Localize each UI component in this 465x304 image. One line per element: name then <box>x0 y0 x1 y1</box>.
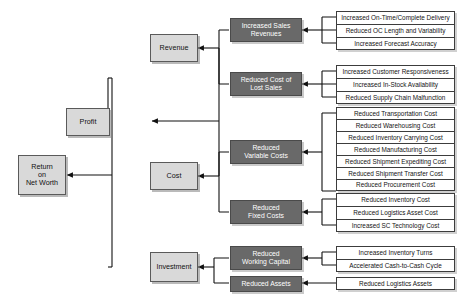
node-label-line1: Reduced <box>252 204 279 212</box>
node-profit[interactable]: Profit <box>66 108 110 136</box>
node-label-line2: Revenues <box>251 30 282 38</box>
leaf-group-reduced-cost-of-lost-sales: Increased Customer Responsiveness Increa… <box>336 65 455 104</box>
leaf-item[interactable]: Reduced OC Length and Variability <box>336 24 455 37</box>
leaf-item[interactable]: Increased Inventory Turns <box>336 246 455 259</box>
node-label-line2: Variable Costs <box>244 152 288 160</box>
leaf-group-increased-sales-revenues: Increased On-Time/Complete Delivery Redu… <box>336 11 455 50</box>
node-label: Reduced Assets <box>241 280 290 288</box>
node-label: Investment <box>156 263 191 271</box>
leaf-item[interactable]: Accelerated Cash-to-Cash Cycle <box>336 259 455 272</box>
leaf-item[interactable]: Reduced Transportation Cost <box>336 107 455 119</box>
leaf-item[interactable]: Reduced Procurement Cost <box>336 179 455 191</box>
node-reduced-working-capital[interactable]: Reduced Working Capital <box>230 246 302 270</box>
leaf-item[interactable]: Reduced Warehousing Cost <box>336 119 455 131</box>
node-reduced-variable-costs[interactable]: Reduced Variable Costs <box>230 140 302 164</box>
leaf-item[interactable]: Reduced Shipment Transfer Cost <box>336 167 455 179</box>
node-investment[interactable]: Investment <box>150 252 198 282</box>
node-label-line2: Lost Sales <box>250 84 282 92</box>
node-label: Cost <box>167 172 182 180</box>
leaf-group-reduced-working-capital: Increased Inventory Turns Accelerated Ca… <box>336 246 455 272</box>
node-return-on-net-worth[interactable]: Return on Net Worth <box>18 155 66 195</box>
node-label-line1: Reduced Cost of <box>241 76 292 84</box>
node-revenue[interactable]: Revenue <box>150 34 198 62</box>
leaf-item[interactable]: Increased In-Stock Availability <box>336 78 455 91</box>
leaf-item[interactable]: Reduced Inventory Carrying Cost <box>336 131 455 143</box>
leaf-item[interactable]: Reduced Logistics Assets <box>336 277 455 290</box>
leaf-item[interactable]: Increased Forecast Accuracy <box>336 37 455 50</box>
node-label-line1: Reduced <box>252 250 279 258</box>
leaf-item[interactable]: Increased On-Time/Complete Delivery <box>336 11 455 24</box>
leaf-group-reduced-variable-costs: Reduced Transportation Cost Reduced Ware… <box>336 107 455 191</box>
leaf-item[interactable]: Reduced Supply Chain Malfunction <box>336 91 455 104</box>
leaf-item[interactable]: Reduced Manufacturing Cost <box>336 143 455 155</box>
node-cost[interactable]: Cost <box>150 162 198 190</box>
node-label-line1: Reduced <box>252 144 279 152</box>
leaf-group-reduced-assets: Reduced Logistics Assets <box>336 277 455 290</box>
leaf-item[interactable]: Reduced Logistics Asset Cost <box>336 206 455 219</box>
leaf-item[interactable]: Reduced Inventory Cost <box>336 193 455 206</box>
leaf-item[interactable]: Increased Customer Responsiveness <box>336 65 455 78</box>
node-label: Profit <box>80 118 97 126</box>
node-label-line2: Working Capital <box>242 258 290 266</box>
node-increased-sales-revenues[interactable]: Increased Sales Revenues <box>230 18 302 42</box>
leaf-item[interactable]: Increased SC Technology Cost <box>336 219 455 232</box>
node-reduced-assets[interactable]: Reduced Assets <box>230 276 302 292</box>
diagram-canvas: Return on Net Worth Profit Investment Re… <box>0 0 465 304</box>
node-label: Revenue <box>160 44 189 52</box>
node-label-line3: Net Worth <box>26 179 58 187</box>
node-label-line1: Increased Sales <box>242 22 291 30</box>
node-reduced-cost-of-lost-sales[interactable]: Reduced Cost of Lost Sales <box>230 72 302 96</box>
leaf-group-reduced-fixed-costs: Reduced Inventory Cost Reduced Logistics… <box>336 193 455 232</box>
node-reduced-fixed-costs[interactable]: Reduced Fixed Costs <box>230 200 302 224</box>
leaf-item[interactable]: Reduced Shipment Expediting Cost <box>336 155 455 167</box>
node-label-line2: Fixed Costs <box>248 212 284 220</box>
